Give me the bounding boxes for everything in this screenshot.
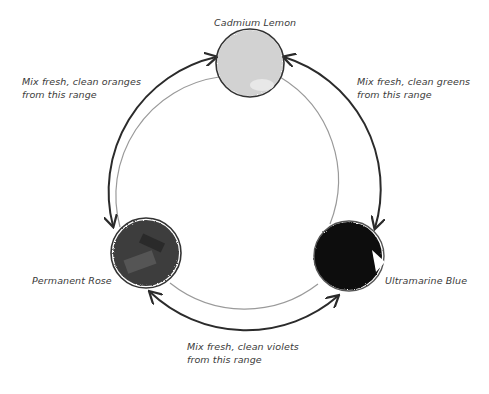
paint-permanent-rose — [111, 218, 181, 288]
range-note-violets: Mix fresh, clean violets from this range — [187, 340, 299, 366]
paint-cadmium-lemon — [216, 29, 284, 97]
range-note-greens: Mix fresh, clean greens from this range — [357, 75, 470, 101]
range-note-line1: Mix fresh, clean oranges — [22, 75, 141, 88]
paint-ultramarine-blue — [314, 221, 385, 291]
range-note-line1: Mix fresh, clean violets — [187, 340, 299, 353]
label-cadmium-lemon: Cadmium Lemon — [214, 16, 296, 29]
range-note-line2: from this range — [357, 88, 470, 101]
range-note-line2: from this range — [187, 353, 299, 366]
color-wheel-diagram — [0, 0, 489, 394]
label-ultramarine-blue: Ultramarine Blue — [385, 274, 467, 287]
label-permanent-rose: Permanent Rose — [32, 274, 112, 287]
range-note-oranges: Mix fresh, clean oranges from this range — [22, 75, 141, 101]
range-note-line2: from this range — [22, 88, 141, 101]
range-note-line1: Mix fresh, clean greens — [357, 75, 470, 88]
inner-arc-right — [280, 77, 338, 224]
arrow-arc-violets — [150, 292, 338, 330]
inner-arc-bottom — [170, 283, 318, 309]
